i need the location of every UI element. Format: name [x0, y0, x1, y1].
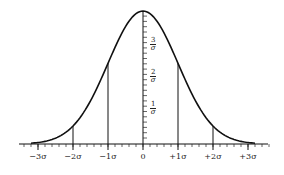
y-tick-label-1-over-sigma: 1 σ	[150, 101, 156, 116]
x-tick-label-minus-2: −2σ	[64, 152, 81, 161]
x-tick-label-minus-1: −1σ	[99, 152, 116, 161]
y-tick-label-2-over-sigma: 2 σ	[150, 69, 156, 84]
x-tick-label-zero: 0	[140, 152, 145, 161]
x-tick-label-plus-3: +3σ	[239, 152, 256, 161]
x-tick-label-minus-3: −3σ	[29, 152, 46, 161]
x-tick-label-plus-2: +2σ	[204, 152, 221, 161]
y-tick-label-3-over-sigma: 3 σ	[150, 37, 156, 52]
normal-curve-plot	[0, 0, 284, 175]
x-tick-label-plus-1: +1σ	[169, 152, 186, 161]
